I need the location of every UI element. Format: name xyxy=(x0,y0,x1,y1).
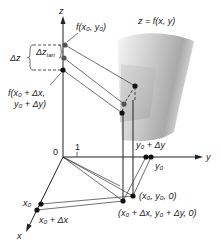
delta-z-brace xyxy=(28,45,34,70)
origin-ray-2 xyxy=(63,157,123,201)
surface-point-x0y0 xyxy=(132,83,137,88)
z-axis-label: z xyxy=(58,6,64,16)
unit-tick-label: 1 xyxy=(75,142,80,152)
x-axis-label: x xyxy=(16,231,22,241)
delta-z-tan-brace xyxy=(59,45,63,58)
f-shift-label-line1: f(x₀ + Δx, xyxy=(8,88,45,98)
y-axis-arrow-icon xyxy=(195,155,203,160)
z-axis-arrow-icon xyxy=(61,16,66,24)
origin-ray-3 xyxy=(63,157,120,186)
surface-point-shift xyxy=(119,110,124,115)
base-point-shift-label: (x₀ + Δx, y₀ + Δy, 0) xyxy=(118,208,197,218)
x-axis-arrow-icon xyxy=(26,224,32,233)
delta-z-label: Δz xyxy=(9,53,21,63)
delta-z-tan-subscript: tan xyxy=(47,52,56,58)
tangent-point-shift xyxy=(121,101,126,106)
f-x0-y0-label: f(x₀, y₀) xyxy=(76,22,106,32)
base-point-shift xyxy=(120,198,125,203)
delta-z-tan-label: Δztan xyxy=(35,47,56,58)
point-x0 xyxy=(38,201,43,206)
x0-plus-dx-label: x₀ + Δx xyxy=(38,215,69,225)
floor-line-x0 xyxy=(41,196,133,204)
y0-plus-dy-label: y₀ + Δy xyxy=(135,140,166,150)
point-y0-plus-dy xyxy=(143,154,148,159)
f-shift-label-line2: y₀ + Δy) xyxy=(13,99,46,109)
base-point-label: (x₀, y₀, 0) xyxy=(139,191,177,201)
point-f-x0y0 xyxy=(62,42,67,47)
pointer-f-x0y0 xyxy=(67,33,78,42)
point-f-shift xyxy=(60,67,65,72)
diagram-canvas: z y x 0 1 z = f(x, y) f(x₀, y₀) f(x₀ + Δ… xyxy=(0,0,221,242)
point-tangent-z xyxy=(61,55,66,60)
point-x0-plus-dx xyxy=(34,207,39,212)
floor-line-x0dx xyxy=(37,201,123,210)
surface-label: z = f(x, y) xyxy=(137,16,175,26)
origin-label: 0 xyxy=(53,147,58,157)
pointer-f-shift xyxy=(50,73,61,85)
x0-label: x₀ xyxy=(22,198,32,208)
point-y0 xyxy=(148,154,153,159)
delta-z-tan-main: Δz xyxy=(35,47,47,57)
y0-label: y₀ xyxy=(154,161,164,171)
base-point-x0y0 xyxy=(130,193,135,198)
y-axis-label: y xyxy=(205,152,211,162)
z-link-mid xyxy=(64,58,124,104)
z-link-bot xyxy=(63,70,122,113)
